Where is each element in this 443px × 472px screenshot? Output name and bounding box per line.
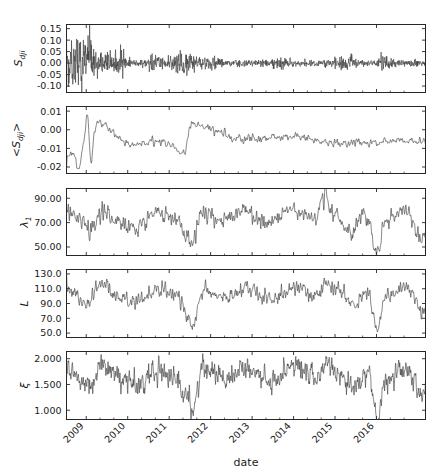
y-axis-label-text: L	[18, 300, 31, 306]
svg-text:2015: 2015	[310, 420, 335, 445]
x-tick-label: 2012	[185, 420, 210, 445]
y-tick-label: -0.01	[37, 143, 62, 154]
svg-text:2016: 2016	[351, 420, 376, 445]
x-tick-label: 2014	[268, 420, 293, 445]
panel-frame	[67, 270, 426, 338]
svg-text:2010: 2010	[102, 420, 127, 445]
y-axis-label: <Sdji>	[10, 123, 25, 157]
y-tick-label: 90.0	[40, 298, 61, 309]
y-tick-label: 0.00	[40, 57, 61, 68]
panel-L: 130.0110.090.070.050.0L	[18, 268, 426, 338]
y-tick-label: 0.05	[40, 46, 61, 57]
x-tick-label: 2015	[310, 420, 335, 445]
data-series-L	[67, 270, 426, 333]
y-tick-label: 70.00	[34, 217, 61, 228]
data-series-xi	[67, 354, 426, 420]
data-series-lambda_1	[67, 189, 426, 256]
y-tick-label: 0.15	[40, 23, 61, 34]
y-tick-label: 50.00	[34, 241, 61, 252]
y-tick-label: 90.00	[34, 193, 61, 204]
panel-sdji: 0.150.100.050.00-0.05-0.10Sdji	[12, 23, 426, 92]
data-series-S_dji	[67, 25, 426, 93]
y-tick-label: 70.0	[40, 313, 61, 324]
y-tick-label: -0.02	[37, 161, 62, 172]
y-axis-label: λ1	[18, 216, 33, 228]
y-tick-label: 110.0	[34, 283, 61, 294]
y-tick-label: 1.000	[34, 405, 61, 416]
svg-text:2009: 2009	[61, 420, 86, 445]
y-tick-label: 0.01	[40, 106, 61, 117]
x-axis-label: date	[234, 456, 259, 469]
svg-text:2011: 2011	[144, 420, 169, 445]
x-tick-label: 2010	[102, 420, 127, 445]
y-tick-label: -0.05	[37, 69, 62, 80]
svg-text:2014: 2014	[268, 420, 293, 445]
svg-text:2013: 2013	[227, 420, 252, 445]
svg-text:2012: 2012	[185, 420, 210, 445]
y-tick-label: 50.0	[40, 327, 61, 338]
multi-panel-time-series-chart: 0.150.100.050.00-0.05-0.10Sdji0.010.00-0…	[0, 0, 443, 472]
x-tick-label: 2016	[351, 420, 376, 445]
x-tick-label: 2009	[61, 420, 86, 445]
y-axis-label-text: λ1	[18, 216, 33, 228]
panel-lambda1: 90.0070.0050.00λ1	[18, 189, 426, 256]
y-axis-label-text: <Sdji>	[10, 123, 25, 157]
data-series-<S_dji>	[67, 115, 426, 169]
y-tick-label: -0.10	[37, 80, 62, 91]
y-tick-label: 1.500	[34, 379, 61, 390]
y-tick-label: 0.10	[40, 35, 61, 46]
y-axis-label-text: ξ	[18, 382, 31, 390]
y-axis-label: Sdji	[12, 50, 27, 67]
x-tick-label: 2011	[144, 420, 169, 445]
y-axis-label: ξ	[18, 382, 31, 390]
panel-mean-sdji: 0.010.00-0.01-0.02<Sdji>	[10, 106, 426, 174]
y-tick-label: 2.000	[34, 353, 61, 364]
panel-xi: 2.0001.5001.000ξ	[18, 352, 426, 420]
y-axis-label-text: Sdji	[12, 50, 27, 67]
figure-canvas: 0.150.100.050.00-0.05-0.10Sdji0.010.00-0…	[0, 0, 443, 472]
x-tick-label: 2013	[227, 420, 252, 445]
y-tick-label: 0.00	[40, 124, 61, 135]
y-tick-label: 130.0	[34, 268, 61, 279]
y-axis-label: L	[18, 300, 31, 306]
